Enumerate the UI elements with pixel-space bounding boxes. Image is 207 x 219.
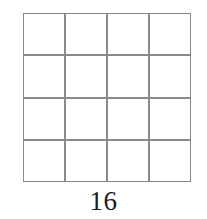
grid-caption: 16 bbox=[0, 186, 207, 216]
grid-cell bbox=[108, 99, 148, 139]
grid-cell bbox=[108, 141, 148, 181]
grid-cell bbox=[24, 99, 64, 139]
grid-figure: 16 bbox=[0, 0, 207, 219]
grid-cell bbox=[24, 14, 64, 54]
grid-cell bbox=[24, 141, 64, 181]
grid-cell bbox=[66, 141, 106, 181]
grid-cell bbox=[66, 56, 106, 96]
grid-cell bbox=[108, 56, 148, 96]
grid-cell bbox=[66, 99, 106, 139]
grid-cell bbox=[150, 99, 190, 139]
square-grid bbox=[23, 13, 191, 182]
grid-cell bbox=[24, 56, 64, 96]
grid-cell bbox=[150, 14, 190, 54]
grid-cell bbox=[150, 141, 190, 181]
grid-cell bbox=[108, 14, 148, 54]
grid-cell bbox=[66, 14, 106, 54]
figure-canvas: 16 bbox=[0, 0, 207, 219]
grid-cell bbox=[150, 56, 190, 96]
